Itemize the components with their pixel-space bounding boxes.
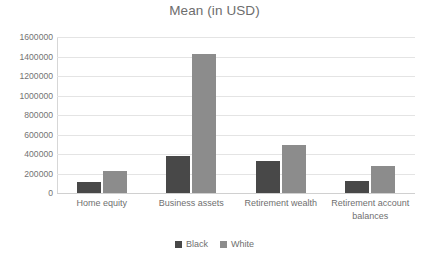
chart-title: Mean (in USD) [0,3,429,18]
plot-area [57,37,415,193]
y-axis-tick-label: 1400000 [1,52,53,62]
legend-item[interactable]: Black [175,239,208,249]
bar-group [236,37,326,193]
legend-label: Black [186,239,208,249]
chart-legend: BlackWhite [0,239,429,249]
x-axis-line [57,193,415,194]
x-axis-category-label: Retirement wealth [236,197,326,210]
bar[interactable] [371,166,395,193]
bar[interactable] [282,145,306,193]
y-axis-tick-label: 400000 [1,149,53,159]
legend-label: White [231,239,254,249]
legend-item[interactable]: White [220,239,254,249]
bar-chart: Mean (in USD) 16000001400000120000010000… [0,0,429,261]
bar-group [326,37,416,193]
legend-swatch-icon [175,241,182,248]
y-axis-tick-label: 0 [1,188,53,198]
y-axis-tick-label: 1600000 [1,32,53,42]
y-axis-tick-label: 1000000 [1,91,53,101]
x-axis-category-label: Home equity [57,197,147,210]
x-axis-category-label: Business assets [147,197,237,210]
bar-group [147,37,237,193]
bar[interactable] [103,171,127,193]
bar[interactable] [256,161,280,193]
bar[interactable] [166,156,190,193]
y-axis-tick-labels: 1600000140000012000001000000800000600000… [0,37,53,193]
y-axis-tick-label: 600000 [1,130,53,140]
x-axis-category-label: Retirement account balances [326,197,416,222]
y-axis-tick-label: 800000 [1,110,53,120]
bar[interactable] [192,54,216,193]
y-axis-tick-label: 200000 [1,169,53,179]
legend-swatch-icon [220,241,227,248]
bar-group [57,37,147,193]
bar[interactable] [77,182,101,193]
x-axis-category-labels: Home equityBusiness assetsRetirement wea… [57,197,415,231]
y-axis-tick-label: 1200000 [1,71,53,81]
bar[interactable] [345,181,369,193]
